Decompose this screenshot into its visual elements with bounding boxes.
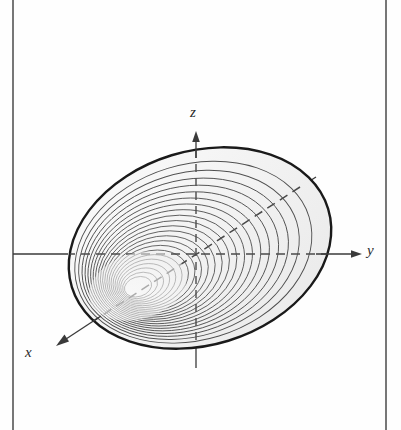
ellipsoid-body	[43, 116, 356, 380]
axis-label-z: z	[189, 104, 196, 120]
figure-page: z y x	[0, 0, 401, 430]
x-axis-lower-run	[63, 316, 101, 341]
axis-label-y: y	[365, 242, 374, 258]
ellipsoid-level-surface-figure: z y x	[0, 0, 401, 430]
z-axis-arrowhead	[192, 131, 200, 142]
x-axis-arrowhead	[56, 335, 69, 347]
y-axis-arrowhead	[351, 250, 362, 257]
axis-label-x: x	[24, 344, 32, 360]
